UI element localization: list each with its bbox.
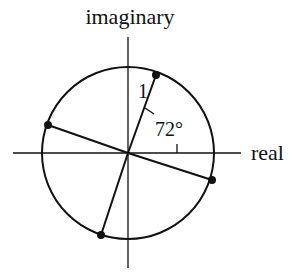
radius-label: 1 xyxy=(138,80,148,102)
complex-plane-diagram: imaginary real 1 72° xyxy=(0,0,300,279)
radius-to-root-3 xyxy=(48,125,128,153)
root-point xyxy=(44,121,52,129)
real-axis-label: real xyxy=(251,140,284,165)
radius-to-root-4 xyxy=(101,153,128,235)
root-point xyxy=(152,71,160,79)
root-point xyxy=(208,176,216,184)
angle-label: 72° xyxy=(155,118,183,140)
radius-to-root-1 xyxy=(128,153,212,180)
angle-tick-upper xyxy=(145,108,154,114)
root-point xyxy=(97,231,105,239)
imaginary-axis-label: imaginary xyxy=(85,4,174,29)
